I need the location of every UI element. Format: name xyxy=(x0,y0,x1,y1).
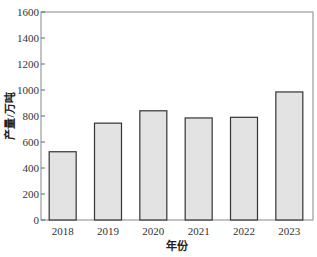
y-tick-label: 0 xyxy=(34,214,40,226)
bar-2023 xyxy=(276,92,303,220)
x-axis-title: 年份 xyxy=(166,239,189,252)
bar-chart: 02004006008001000120014001600 2018201920… xyxy=(0,0,317,257)
y-tick-label: 400 xyxy=(23,162,40,174)
y-tick-label: 600 xyxy=(23,136,40,148)
x-tick-label: 2023 xyxy=(278,225,301,237)
plot-area xyxy=(41,12,313,220)
x-tick-label: 2020 xyxy=(142,225,165,237)
x-tick-label: 2021 xyxy=(188,225,210,237)
y-tick-label: 800 xyxy=(23,110,40,122)
bar-2019 xyxy=(95,123,122,220)
y-tick-label: 1400 xyxy=(17,32,40,44)
x-tick-label: 2018 xyxy=(52,225,75,237)
y-tick-label: 1600 xyxy=(17,6,40,18)
y-tick-label: 1200 xyxy=(17,58,40,70)
x-tick-label: 2019 xyxy=(97,225,120,237)
bars xyxy=(49,92,303,220)
bar-2018 xyxy=(49,152,76,220)
y-axis-title: 产量/万吨 xyxy=(3,92,16,139)
x-axis: 201820192020202120222023 xyxy=(52,216,301,237)
plot-border xyxy=(41,12,313,220)
y-tick-label: 1000 xyxy=(17,84,40,96)
y-tick-label: 200 xyxy=(23,188,40,200)
x-tick-label: 2022 xyxy=(233,225,255,237)
bar-2021 xyxy=(185,118,212,220)
bar-2022 xyxy=(231,117,258,220)
bar-2020 xyxy=(140,111,167,220)
